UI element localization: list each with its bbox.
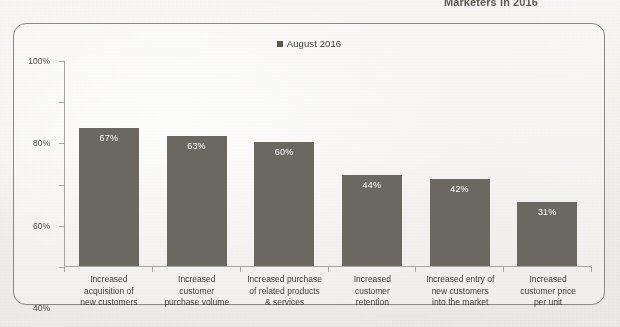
category-label-line: customer price [506,286,590,298]
category-tick [415,267,416,272]
category-tick [328,267,329,272]
bar[interactable]: 44% [342,175,402,266]
category-label-line: new customers [418,286,502,298]
bar-value-label: 60% [254,147,314,157]
y-axis-tick: 40% [59,185,64,186]
legend-label: August 2016 [287,38,341,49]
category-label-line: Increased purchase [243,274,327,286]
legend-swatch-icon [277,41,283,47]
category-label-line: Increased entry of [418,274,502,286]
bar[interactable]: 31% [517,202,577,266]
bar[interactable]: 63% [167,136,227,266]
category-label-line: per unit [506,297,590,309]
bar-series: 67%63%60%44%42%31% [65,61,591,266]
bar-value-label: 63% [167,141,227,151]
category-tick [64,267,65,272]
y-axis-tick-label: 100% [28,56,50,66]
category-label-line: purchase volume [155,297,239,309]
bar-value-label: 67% [79,133,139,143]
category-label-line: into the market [418,297,502,309]
category-label: Increased entry ofnew customersinto the … [416,274,504,309]
category-label: Increased purchaseof related products& s… [241,274,329,309]
category-label: Increasedcustomerretention [328,274,416,309]
category-label-line: customer [330,286,414,298]
category-label-line: Increased [506,274,590,286]
category-tick [591,267,592,272]
bar-slot: 60% [240,61,328,266]
category-label: Increasedcustomer priceper unit [504,274,592,309]
category-label-line: new customers [67,297,151,309]
y-axis-tick: 60% [59,143,64,144]
caption-text: Marketers in 2016 [444,0,538,8]
y-axis-tick-label: 80% [33,138,50,148]
category-label-line: of related products [243,286,327,298]
category-tick [152,267,153,272]
category-label-line: retention [330,297,414,309]
chart-frame: August 2016 100%80%60%40%20%0% 67%63%60%… [13,23,605,305]
category-label-line: & services [243,297,327,309]
caption-cropped: Marketers in 2016 [444,0,538,9]
bar-slot: 31% [503,61,591,266]
category-tick-marks [64,267,591,272]
category-label-line: Increased [330,274,414,286]
y-axis-tick: 100% [59,61,64,62]
y-axis-tick: 20% [59,226,64,227]
bar-slot: 67% [65,61,153,266]
chart-legend: August 2016 [14,38,604,49]
plot-area: 100%80%60%40%20%0% 67%63%60%44%42%31% [64,61,591,267]
bar[interactable]: 67% [79,128,139,266]
bar-value-label: 42% [430,184,490,194]
bar-slot: 44% [328,61,416,266]
bar-slot: 63% [153,61,241,266]
category-label-line: acquisition of [67,286,151,298]
bar-slot: 42% [416,61,504,266]
bar[interactable]: 60% [254,142,314,266]
category-tick [503,267,504,272]
bar-value-label: 31% [517,207,577,217]
bar-value-label: 44% [342,180,402,190]
category-label: Increasedacquisition ofnew customers [65,274,153,309]
category-tick [240,267,241,272]
y-axis-tick-label: 60% [33,221,50,231]
y-axis-tick-label: 40% [33,303,50,313]
bar[interactable]: 42% [430,179,490,266]
category-label-line: customer [155,286,239,298]
category-label-line: Increased [67,274,151,286]
category-label-line: Increased [155,274,239,286]
category-labels: Increasedacquisition ofnew customersIncr… [65,274,592,309]
y-axis-tick: 80% [59,102,64,103]
category-label: Increasedcustomerpurchase volume [153,274,241,309]
